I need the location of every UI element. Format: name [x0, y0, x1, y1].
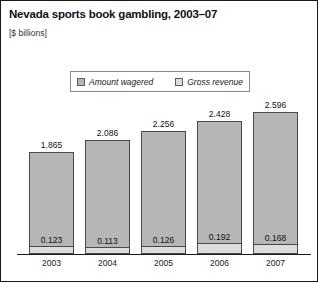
- bar-value-label-amount-wagered: 1.865: [29, 140, 74, 150]
- bar-value-label-amount-wagered: 2.086: [85, 128, 130, 138]
- x-axis-tick-label: 2006: [197, 258, 242, 268]
- bar-value-label-gross-revenue: 0.192: [197, 232, 242, 242]
- x-axis-tick-label: 2005: [141, 258, 186, 268]
- bar-group: 1.8650.123: [29, 152, 74, 254]
- bar-group: 2.2560.126: [141, 131, 186, 254]
- legend-label: Amount wagered: [89, 77, 153, 87]
- bar-group: 2.5960.168: [253, 112, 298, 254]
- bar-value-label-amount-wagered: 2.428: [197, 109, 242, 119]
- bar-gross-revenue: [254, 244, 297, 253]
- bar-value-label-gross-revenue: 0.113: [85, 236, 130, 246]
- legend-swatch-icon: [175, 78, 183, 86]
- bar-value-label-amount-wagered: 2.256: [141, 119, 186, 129]
- plot-area: 1.8650.1232.0860.1132.2560.1262.4280.192…: [17, 101, 311, 255]
- bar-container: 1.8650.1232.0860.1132.2560.1262.4280.192…: [29, 101, 311, 254]
- x-axis-line: [17, 254, 311, 255]
- x-axis-tick-label: 2004: [85, 258, 130, 268]
- legend-item-gross-revenue: Gross revenue: [175, 77, 243, 87]
- bar-group: 2.4280.192: [197, 121, 242, 254]
- legend-swatch-icon: [77, 78, 85, 86]
- bar-value-label-gross-revenue: 0.123: [29, 235, 74, 245]
- bar-gross-revenue: [30, 246, 73, 253]
- x-axis-labels: 20032004200520062007: [29, 258, 311, 268]
- chart-legend: Amount wagered Gross revenue: [70, 71, 250, 92]
- chart-units-label: [$ billions]: [9, 28, 47, 38]
- bar-value-label-gross-revenue: 0.126: [141, 235, 186, 245]
- chart-figure: Nevada sports book gambling, 2003–07 [$ …: [0, 0, 318, 282]
- bar-group: 2.0860.113: [85, 140, 130, 254]
- x-axis-tick-label: 2007: [253, 258, 298, 268]
- bar-gross-revenue: [142, 246, 185, 253]
- legend-label: Gross revenue: [187, 77, 243, 87]
- bar-gross-revenue: [198, 243, 241, 253]
- page-title: Nevada sports book gambling, 2003–07: [9, 8, 217, 20]
- x-axis-tick-label: 2003: [29, 258, 74, 268]
- legend-item-amount-wagered: Amount wagered: [77, 77, 153, 87]
- bar-value-label-gross-revenue: 0.168: [253, 233, 298, 243]
- bar-gross-revenue: [86, 247, 129, 253]
- bar-value-label-amount-wagered: 2.596: [253, 100, 298, 110]
